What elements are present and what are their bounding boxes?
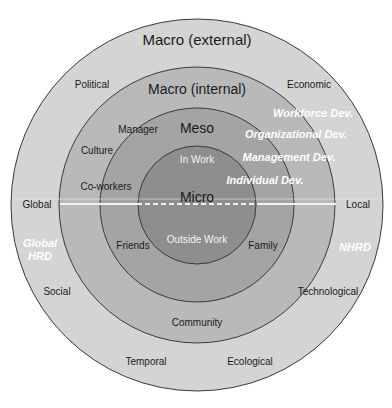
hrd-context-diagram: Macro (external) Macro (internal) Meso M… bbox=[0, 0, 392, 408]
title-macro-external: Macro (external) bbox=[142, 31, 251, 48]
title-micro: Micro bbox=[180, 189, 214, 205]
factor-community: Community bbox=[172, 317, 223, 328]
factor-friends: Friends bbox=[116, 240, 149, 251]
side-label-nhrd: NHRD bbox=[339, 241, 371, 253]
factor-culture: Culture bbox=[81, 145, 114, 156]
side-label-global-hrd-line2: HRD bbox=[28, 250, 52, 262]
axis-label-local: Local bbox=[346, 199, 370, 210]
title-macro-internal: Macro (internal) bbox=[148, 81, 246, 97]
factor-ecological: Ecological bbox=[227, 356, 273, 367]
factor-temporal: Temporal bbox=[125, 356, 166, 367]
title-meso: Meso bbox=[180, 120, 214, 136]
axis-label-global: Global bbox=[23, 199, 52, 210]
micro-in-work: In Work bbox=[180, 154, 215, 165]
factor-social: Social bbox=[43, 286, 70, 297]
factor-technological: Technological bbox=[298, 286, 359, 297]
dev-level-management: Management Dev. bbox=[243, 151, 336, 163]
micro-outside-work: Outside Work bbox=[167, 234, 228, 245]
factor-political: Political bbox=[75, 79, 109, 90]
factor-co-workers: Co-workers bbox=[80, 181, 131, 192]
dev-level-individual: Individual Dev. bbox=[226, 174, 303, 186]
dev-level-organizational: Organizational Dev. bbox=[245, 128, 347, 140]
factor-economic: Economic bbox=[287, 79, 331, 90]
side-label-global-hrd-line1: Global bbox=[23, 237, 58, 249]
dev-level-workforce: Workforce Dev. bbox=[273, 107, 353, 119]
factor-family: Family bbox=[248, 240, 277, 251]
factor-manager: Manager bbox=[118, 124, 158, 135]
